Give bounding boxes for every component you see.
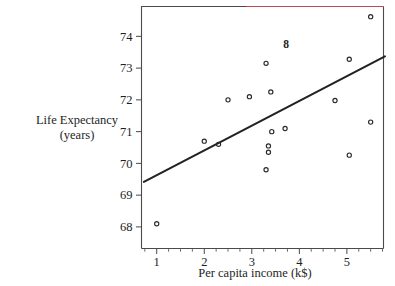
chart-page: 12345 68697071727374 8 Per capita income… <box>0 0 395 286</box>
y-axis-title-line1: Life Expectancy <box>36 113 119 127</box>
chart-annotations: 8 <box>283 38 289 50</box>
x-tick-label: 5 <box>344 255 350 269</box>
y-tick-label: 72 <box>120 93 133 107</box>
y-tick-label: 69 <box>120 188 133 202</box>
y-tick-label: 70 <box>120 157 133 171</box>
y-tick-label: 73 <box>120 61 133 75</box>
y-tick-label: 71 <box>120 125 133 139</box>
scatter-plot: 12345 68697071727374 8 Per capita income… <box>0 0 395 286</box>
y-tick-label: 74 <box>120 30 133 44</box>
y-tick-label: 68 <box>120 220 133 234</box>
x-axis-title: Per capita income (k$) <box>198 266 312 280</box>
y-axis-title-line2: (years) <box>60 128 95 142</box>
chart-background <box>0 0 395 286</box>
x-tick-label: 1 <box>154 255 160 269</box>
annotation-label: 8 <box>283 38 289 50</box>
